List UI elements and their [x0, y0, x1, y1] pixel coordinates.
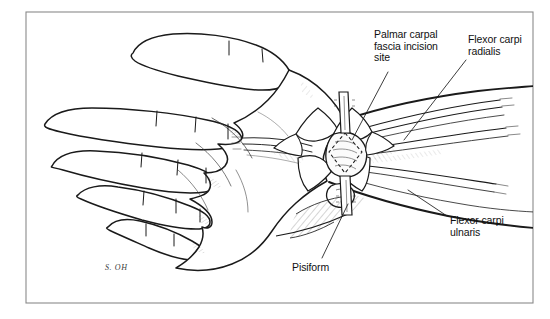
label-pisiform: Pisiform [292, 262, 329, 274]
retractor-superior [339, 92, 350, 133]
label-flexor-carpi-radialis: Flexor carpi radialis [468, 34, 522, 57]
label-palmar-carpal-fascia-incision-site: Palmar carpal fascia incision site [374, 29, 438, 64]
retractor-inferior [340, 176, 352, 215]
artist-signature: S. OH [105, 263, 128, 272]
incision-opening [326, 132, 367, 177]
label-flexor-carpi-ulnaris: Flexor carpi ulnaris [450, 215, 504, 238]
